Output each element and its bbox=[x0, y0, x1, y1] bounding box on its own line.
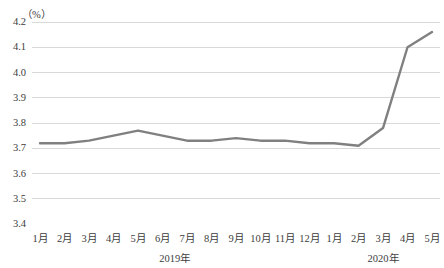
x-axis-group-label: 2019年 bbox=[159, 250, 190, 265]
x-axis-group-label: 2020年 bbox=[368, 250, 399, 265]
x-axis-tick-label: 4月 bbox=[400, 230, 415, 245]
gridlines bbox=[32, 22, 440, 224]
x-axis-tick-label: 1月 bbox=[32, 230, 47, 245]
y-axis-tick-label: 3.5 bbox=[0, 194, 26, 204]
x-axis-tick-label: 4月 bbox=[106, 230, 121, 245]
x-axis-tick-label: 8月 bbox=[204, 230, 219, 245]
series-lines bbox=[40, 32, 432, 146]
y-axis-tick-label: 3.8 bbox=[0, 118, 26, 128]
x-axis-tick-label: 3月 bbox=[375, 230, 390, 245]
plot-svg bbox=[32, 22, 440, 224]
x-axis-tick-label: 2月 bbox=[57, 230, 72, 245]
x-axis-tick-label: 7月 bbox=[179, 230, 194, 245]
x-axis-tick-label: 3月 bbox=[81, 230, 96, 245]
line-chart: （%） 4.24.14.03.93.83.73.63.53.4 1月2月3月4月… bbox=[0, 0, 444, 268]
x-axis-tick-label: 2月 bbox=[351, 230, 366, 245]
y-axis-tick-label: 3.7 bbox=[0, 143, 26, 153]
y-axis-tick-label: 4.0 bbox=[0, 68, 26, 78]
x-axis-tick-label: 5月 bbox=[130, 230, 145, 245]
y-axis-tick-label: 3.6 bbox=[0, 169, 26, 179]
x-axis-tick-label: 12月 bbox=[299, 230, 320, 245]
y-axis-tick-label: 4.2 bbox=[0, 17, 26, 27]
x-axis-tick-label: 1月 bbox=[326, 230, 341, 245]
y-axis-tick-label: 3.4 bbox=[0, 219, 26, 229]
series-line bbox=[40, 32, 432, 146]
y-axis-tick-label: 3.9 bbox=[0, 93, 26, 103]
plot-area bbox=[32, 22, 440, 224]
y-axis-unit-label: （%） bbox=[22, 6, 51, 21]
x-axis-tick-label: 10月 bbox=[250, 230, 271, 245]
x-axis-tick-label: 11月 bbox=[275, 230, 295, 245]
x-axis-tick-label: 5月 bbox=[424, 230, 439, 245]
x-axis-tick-label: 6月 bbox=[155, 230, 170, 245]
y-axis-tick-label: 4.1 bbox=[0, 42, 26, 52]
x-axis-tick-label: 9月 bbox=[228, 230, 243, 245]
